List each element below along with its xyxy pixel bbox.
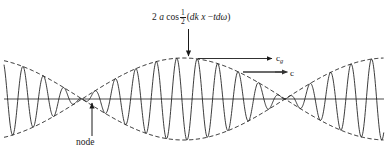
formula-prefix: 2 <box>152 12 157 22</box>
group-velocity-subscript: g <box>280 57 283 64</box>
formula-close-paren: ) <box>227 12 230 22</box>
formula-variable-x: x <box>201 12 205 22</box>
formula-term-one: dk <box>190 12 199 22</box>
node-label: node <box>76 138 94 148</box>
formula-function: cos <box>166 12 179 22</box>
group-velocity-label: cg <box>276 54 283 65</box>
phase-velocity-symbol: c <box>290 68 294 78</box>
phase-velocity-label: c <box>290 69 294 78</box>
formula-fraction-denominator: 2 <box>180 18 186 26</box>
formula-fraction-numerator: 1 <box>180 9 186 17</box>
envelope-lower-dashed <box>4 99 384 140</box>
formula-amplitude-symbol: a <box>159 12 164 22</box>
wave-group-figure: 2 a cos12(dk x −tdω) cg c node <box>0 0 389 156</box>
envelope-formula-label: 2 a cos12(dk x −tdω) <box>152 9 230 26</box>
formula-fraction: 12 <box>180 9 186 26</box>
formula-term-two: tdω <box>213 12 227 22</box>
